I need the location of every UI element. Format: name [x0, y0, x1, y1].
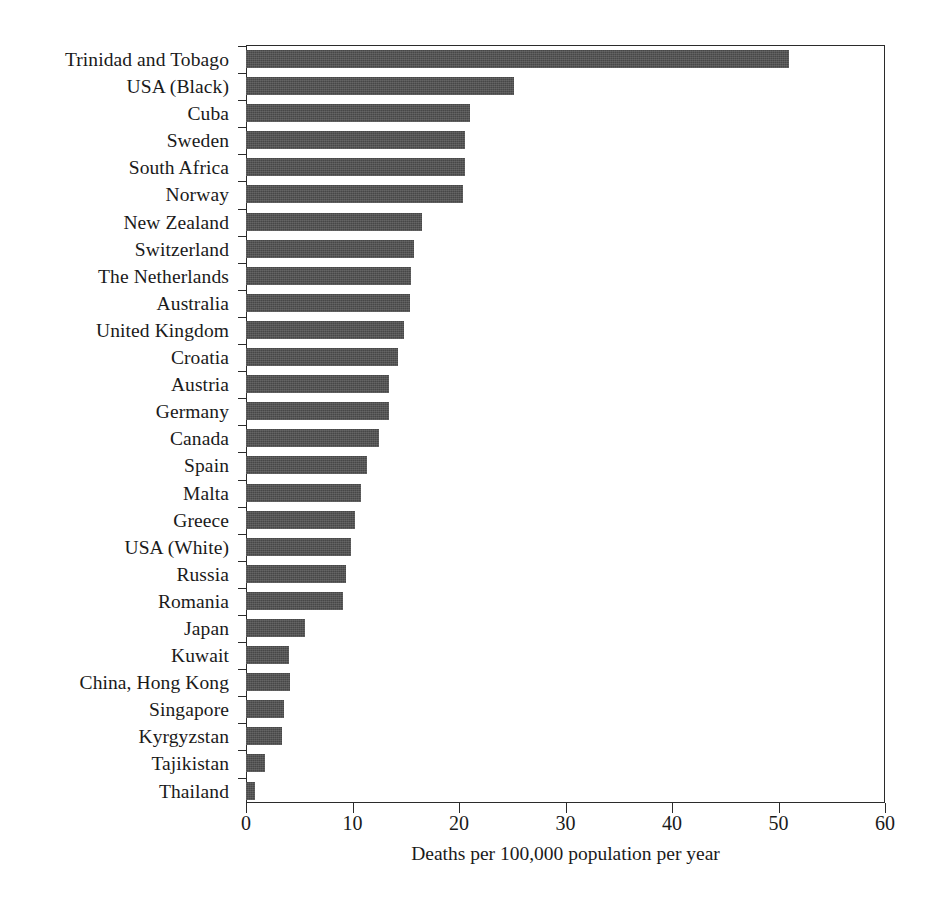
- category-label: Japan: [0, 615, 238, 642]
- category-label: The Netherlands: [0, 263, 238, 290]
- bar: [246, 402, 389, 420]
- category-label: Sweden: [0, 127, 238, 154]
- bar: [246, 565, 346, 583]
- bar: [246, 429, 379, 447]
- bar-chart: Trinidad and TobagoUSA (Black)CubaSweden…: [0, 0, 941, 898]
- category-label: Cuba: [0, 100, 238, 127]
- bar-row: [246, 452, 885, 479]
- bar: [246, 240, 414, 258]
- bar-row: [246, 236, 885, 263]
- bar: [246, 484, 361, 502]
- category-label: Germany: [0, 398, 238, 425]
- bar: [246, 185, 463, 203]
- bar-row: [246, 317, 885, 344]
- bar: [246, 321, 404, 339]
- bar-row: [246, 154, 885, 181]
- x-axis-title: Deaths per 100,000 population per year: [246, 843, 885, 865]
- bar: [246, 131, 465, 149]
- x-tick-label: 60: [875, 812, 895, 835]
- bar-row: [246, 73, 885, 100]
- bar: [246, 619, 305, 637]
- bar-row: [246, 46, 885, 73]
- category-label: Canada: [0, 425, 238, 452]
- x-tick-label: 30: [556, 812, 576, 835]
- bar-row: [246, 615, 885, 642]
- bar: [246, 213, 422, 231]
- bar: [246, 511, 355, 529]
- bar: [246, 375, 389, 393]
- bar: [246, 646, 289, 664]
- category-label: Spain: [0, 452, 238, 479]
- category-label: China, Hong Kong: [0, 669, 238, 696]
- bar: [246, 158, 465, 176]
- category-label: Greece: [0, 507, 238, 534]
- bar: [246, 673, 290, 691]
- category-label: Kyrgyzstan: [0, 723, 238, 750]
- bar-row: [246, 669, 885, 696]
- bar: [246, 267, 411, 285]
- category-label: United Kingdom: [0, 317, 238, 344]
- bar: [246, 538, 351, 556]
- x-tick-label: 50: [769, 812, 789, 835]
- category-label: South Africa: [0, 154, 238, 181]
- x-tick-label: 20: [449, 812, 469, 835]
- bar-row: [246, 209, 885, 236]
- bar: [246, 754, 265, 772]
- bar: [246, 348, 398, 366]
- category-label: USA (Black): [0, 73, 238, 100]
- y-axis-category-labels: Trinidad and TobagoUSA (Black)CubaSweden…: [0, 46, 238, 803]
- category-label: Switzerland: [0, 236, 238, 263]
- bar-row: [246, 642, 885, 669]
- category-label: Austria: [0, 371, 238, 398]
- bars-container: [246, 46, 885, 803]
- bar: [246, 294, 410, 312]
- bar-row: [246, 344, 885, 371]
- category-label: Singapore: [0, 696, 238, 723]
- bar: [246, 456, 367, 474]
- bar-row: [246, 127, 885, 154]
- x-tick-label: 0: [241, 812, 251, 835]
- bar-row: [246, 480, 885, 507]
- bar-row: [246, 263, 885, 290]
- bar-row: [246, 723, 885, 750]
- bar-row: [246, 561, 885, 588]
- bar-row: [246, 425, 885, 452]
- bar: [246, 727, 282, 745]
- bar-row: [246, 181, 885, 208]
- x-tick-label: 10: [343, 812, 363, 835]
- bar: [246, 50, 789, 68]
- category-label: Thailand: [0, 778, 238, 805]
- category-label: Australia: [0, 290, 238, 317]
- category-label: Norway: [0, 181, 238, 208]
- bar: [246, 104, 470, 122]
- category-label: Romania: [0, 588, 238, 615]
- bar-row: [246, 750, 885, 777]
- category-label: New Zealand: [0, 209, 238, 236]
- category-label: Tajikistan: [0, 750, 238, 777]
- bar: [246, 782, 255, 800]
- x-tick-label: 40: [662, 812, 682, 835]
- bar: [246, 592, 343, 610]
- bar-row: [246, 588, 885, 615]
- category-label: Russia: [0, 561, 238, 588]
- category-label: USA (White): [0, 534, 238, 561]
- bar-row: [246, 371, 885, 398]
- bar-row: [246, 100, 885, 127]
- bar-row: [246, 398, 885, 425]
- bar-row: [246, 290, 885, 317]
- bar-row: [246, 534, 885, 561]
- category-label: Kuwait: [0, 642, 238, 669]
- x-axis-tick-labels: 0102030405060: [246, 812, 885, 842]
- bar: [246, 77, 514, 95]
- bar-row: [246, 696, 885, 723]
- bar-row: [246, 507, 885, 534]
- category-label: Trinidad and Tobago: [0, 46, 238, 73]
- bar-row: [246, 778, 885, 805]
- category-label: Croatia: [0, 344, 238, 371]
- category-label: Malta: [0, 480, 238, 507]
- bar: [246, 700, 284, 718]
